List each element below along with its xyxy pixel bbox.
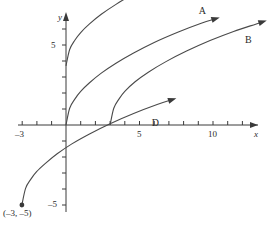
plot-canvas [0, 0, 272, 226]
y-tick-label-neg5: –5 [48, 200, 57, 209]
y-axis-arrowhead [63, 12, 69, 21]
curve-label-d: D [152, 118, 159, 128]
annotated-point-marker [20, 203, 25, 208]
curve-d [22, 100, 172, 205]
x-axis-arrowhead [250, 122, 258, 128]
graph-figure: y x –3 5 10 5 –5 A B C D (–3, –5) [0, 0, 272, 226]
curve-c [66, 0, 219, 66]
curve-label-b: B [245, 35, 252, 45]
curve-b [110, 22, 263, 125]
x-tick-label-5: 5 [137, 130, 142, 139]
x-tick-label-neg3: –3 [15, 130, 24, 139]
x-axis-label: x [254, 130, 258, 139]
y-axis-ticks [62, 29, 66, 205]
x-tick-label-10: 10 [208, 130, 217, 139]
curves-group [22, 0, 267, 205]
curve-label-a: A [199, 6, 206, 16]
curve-b-arrowhead [258, 20, 267, 26]
x-axis-ticks [22, 121, 242, 125]
curve-d-arrowhead [167, 98, 176, 104]
y-tick-label-5: 5 [51, 41, 56, 50]
annotated-point-label: (–3, –5) [3, 209, 32, 218]
curve-a-arrowhead [211, 17, 220, 23]
y-axis-label: y [58, 13, 62, 22]
curve-a [66, 19, 214, 125]
